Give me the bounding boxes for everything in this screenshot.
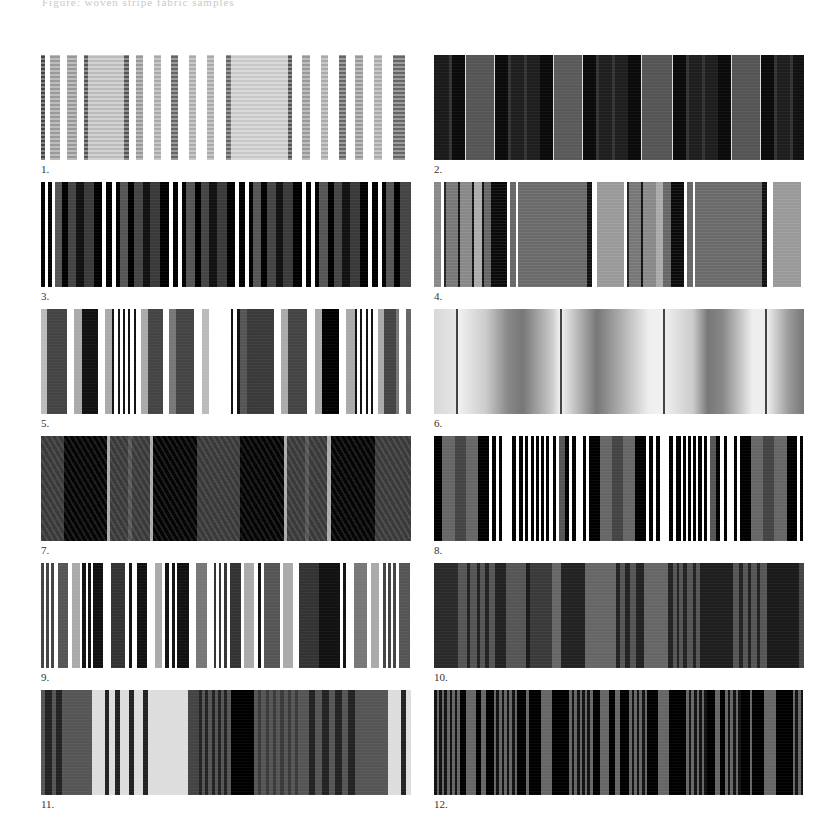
stripe: [529, 690, 541, 795]
stripe: [322, 690, 329, 795]
stripe: [540, 55, 553, 160]
stripe: [177, 563, 189, 668]
stripe: [506, 563, 526, 668]
stripe: [375, 436, 411, 541]
stripe: [339, 55, 346, 160]
stripe: [718, 55, 731, 160]
stripe: [511, 55, 524, 160]
stripe: [599, 55, 612, 160]
stripe: [801, 690, 804, 795]
stripe: [460, 182, 473, 287]
stripe: [484, 182, 491, 287]
stripe: [689, 55, 702, 160]
stripe: [77, 55, 84, 160]
stripe: [350, 182, 360, 287]
stripe: [673, 55, 686, 160]
stripe: [787, 436, 798, 541]
stripe: [331, 436, 375, 541]
stripe: [400, 182, 410, 287]
stripe: [227, 182, 235, 287]
stripe: [660, 436, 669, 541]
stripe: [552, 690, 569, 795]
stripe: [478, 436, 489, 541]
stripe: [466, 55, 494, 160]
swatch-caption: 10.: [434, 671, 448, 683]
stripe: [628, 55, 641, 160]
stripe: [307, 309, 315, 414]
stripe: [354, 563, 367, 668]
stripe: [143, 55, 154, 160]
swatch-caption: 5.: [41, 417, 49, 429]
stripe: [597, 182, 625, 287]
stripe: [406, 309, 410, 414]
stripe: [773, 182, 801, 287]
stripe: [276, 182, 283, 287]
stripe: [47, 309, 66, 414]
stripe: [458, 563, 467, 668]
stripe: [434, 182, 441, 287]
stripe: [209, 182, 216, 287]
swatch-caption: 12.: [434, 798, 448, 810]
stripe: [189, 55, 196, 160]
stripe: [530, 563, 552, 668]
stripe: [612, 436, 623, 541]
stripe: [583, 55, 596, 160]
fabric-sample: [434, 182, 804, 287]
stripe: [342, 182, 349, 287]
stripe: [339, 309, 347, 414]
stripe: [92, 690, 105, 795]
swatch-caption: 2.: [434, 163, 442, 175]
stripe: [298, 690, 309, 795]
stripe: [110, 436, 128, 541]
stripe: [491, 182, 507, 287]
stripe: [328, 55, 339, 160]
stripe: [111, 563, 125, 668]
stripe: [623, 436, 636, 541]
stripe: [399, 309, 407, 414]
stripe: [188, 690, 199, 795]
swatch-caption: 3.: [41, 290, 49, 302]
stripe: [707, 690, 715, 795]
stripe: [517, 690, 526, 795]
stripe: [767, 563, 800, 668]
swatch-caption: 6.: [434, 417, 442, 429]
stripe: [176, 309, 194, 414]
fabric-sample: [434, 436, 804, 541]
stripe: [346, 55, 355, 160]
fabric-sample: [434, 309, 804, 414]
stripe: [585, 563, 616, 668]
stripe: [50, 55, 59, 160]
stripe: [600, 690, 609, 795]
stripe: [663, 182, 671, 287]
stripe: [382, 55, 393, 160]
stripe: [136, 55, 143, 160]
stripe: [763, 436, 774, 541]
stripe: [74, 309, 82, 414]
swatch-caption: 8.: [434, 544, 442, 556]
stripe: [644, 563, 668, 668]
stripe: [94, 182, 102, 287]
stripe: [774, 436, 787, 541]
stripe: [466, 436, 479, 541]
stripe: [486, 690, 494, 795]
stripe: [740, 436, 751, 541]
stripe: [669, 690, 686, 795]
stripe: [393, 55, 405, 160]
stripe: [405, 55, 411, 160]
stripe: [732, 55, 760, 160]
stripe: [455, 436, 466, 541]
stripe: [700, 563, 733, 668]
stripe: [283, 182, 293, 287]
stripe: [264, 563, 280, 668]
stripe: [231, 690, 254, 795]
stripe: [752, 690, 764, 795]
stripe: [374, 55, 382, 160]
stripe: [495, 55, 508, 160]
stripe: [552, 563, 561, 668]
stripe: [371, 563, 379, 668]
stripe: [103, 563, 111, 668]
swatch-caption: 1.: [41, 163, 49, 175]
stripe: [355, 690, 389, 795]
stripe: [576, 436, 583, 541]
stripe: [244, 563, 253, 668]
